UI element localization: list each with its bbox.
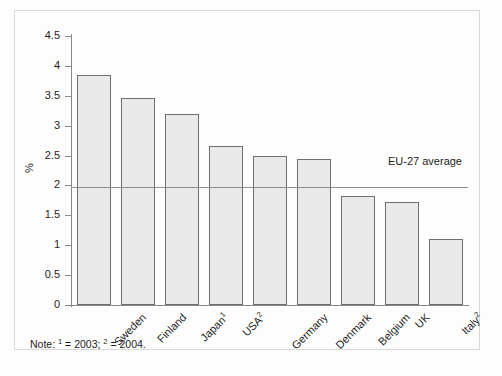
x-axis-category-labels: SwedenFinlandJapan1USA2GermanyDenmarkBel…	[0, 0, 502, 376]
x-axis-category-label: Belgium	[376, 311, 413, 348]
x-axis-category-label-text: UK	[412, 311, 431, 330]
figure-note: Note: 1 = 2003; 2 = 2004.	[30, 338, 146, 350]
note-prefix: Note:	[30, 338, 58, 350]
x-axis-category-label-text: Denmark	[333, 311, 373, 351]
x-axis-category-label: Italy2	[459, 311, 485, 337]
x-axis-category-label-text: Belgium	[376, 311, 413, 348]
note-middle: = 2003;	[62, 338, 103, 350]
figure-container: 00.511.522.533.544.5 % EU-27 average Swe…	[0, 0, 502, 376]
x-axis-category-label: Germany	[289, 311, 329, 351]
x-axis-category-label: Finland	[155, 311, 189, 345]
x-axis-category-label-text: Germany	[289, 311, 329, 351]
note-end: = 2004.	[108, 338, 146, 350]
x-axis-category-label: Japan1	[198, 311, 231, 344]
x-axis-category-label: Denmark	[333, 311, 373, 351]
x-axis-category-label: USA2	[240, 311, 267, 338]
x-axis-category-label-text: Finland	[155, 311, 189, 345]
x-axis-category-label: UK	[412, 311, 431, 330]
